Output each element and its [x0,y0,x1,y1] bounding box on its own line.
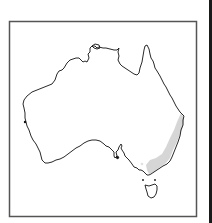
map-frame [10,22,197,217]
kangaroo-island [116,156,119,159]
page-edge-divider [209,0,212,223]
shark-bay-detail [24,121,26,123]
distribution-highlight-dot [141,163,144,166]
bass-strait-island-east [154,179,156,181]
bass-strait-island-west [142,179,144,181]
australia-distribution-map [0,0,212,223]
